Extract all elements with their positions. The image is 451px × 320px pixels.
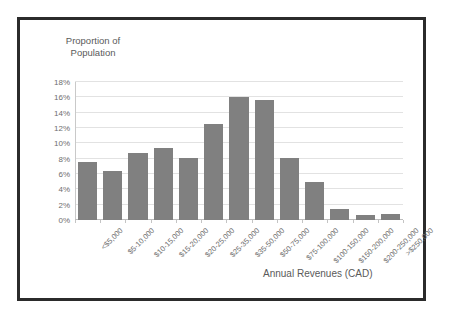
bar-slot xyxy=(75,82,100,220)
bar-slot xyxy=(277,82,302,220)
x-axis-tickmark xyxy=(353,220,354,223)
y-axis-tick-label: 14% xyxy=(54,108,70,117)
x-axis-tickmark xyxy=(75,220,76,223)
x-axis-tickmark xyxy=(201,220,202,223)
bar-slot xyxy=(176,82,201,220)
x-axis-tickmark xyxy=(378,220,379,223)
y-axis-tick-label: 18% xyxy=(54,78,70,87)
x-axis-tickmark xyxy=(277,220,278,223)
bar xyxy=(280,158,299,220)
bar-slot xyxy=(201,82,226,220)
y-axis-tick-label: 0% xyxy=(58,216,70,225)
figure-border: Proportion of Population 0%2%4%6%8%10%12… xyxy=(17,17,426,301)
x-axis-tickmark xyxy=(252,220,253,223)
x-axis-tickmark xyxy=(226,220,227,223)
bar xyxy=(255,100,274,220)
bar xyxy=(356,215,375,220)
bar xyxy=(128,153,147,220)
bar xyxy=(330,209,349,221)
bar-slot xyxy=(125,82,150,220)
x-axis-tick-label: <$5,000 xyxy=(99,226,125,252)
bar-slot xyxy=(100,82,125,220)
bar-slot xyxy=(378,82,403,220)
x-axis-tickmark xyxy=(302,220,303,223)
y-axis-tick-label: 12% xyxy=(54,124,70,133)
bar-slot xyxy=(327,82,352,220)
y-axis-tick-label: 16% xyxy=(54,93,70,102)
plot-area: 0%2%4%6%8%10%12%14%16%18% <$5,000$5-10,0… xyxy=(75,82,403,220)
bar xyxy=(381,214,400,220)
x-axis-title: Annual Revenues (CAD) xyxy=(263,268,373,279)
bar-series xyxy=(75,82,403,220)
bar xyxy=(229,97,248,220)
bar-slot xyxy=(151,82,176,220)
x-axis-tickmark xyxy=(403,220,404,223)
bar xyxy=(78,162,97,220)
bar-slot xyxy=(226,82,251,220)
bar-slot xyxy=(353,82,378,220)
x-axis-tickmark xyxy=(151,220,152,223)
x-axis-tickmark xyxy=(176,220,177,223)
bar xyxy=(204,124,223,220)
y-axis-tick-label: 4% xyxy=(58,185,70,194)
x-axis-tickmark xyxy=(327,220,328,223)
y-axis-tick-label: 2% xyxy=(58,200,70,209)
y-axis-tick-label: 6% xyxy=(58,170,70,179)
bar xyxy=(179,158,198,220)
y-axis-tick-label: 10% xyxy=(54,139,70,148)
bar xyxy=(103,171,122,220)
bar xyxy=(154,148,173,220)
chart-title: Proportion of Population xyxy=(38,35,148,58)
bar-slot xyxy=(302,82,327,220)
bar-slot xyxy=(252,82,277,220)
x-axis-tickmark xyxy=(125,220,126,223)
y-axis-tick-label: 8% xyxy=(58,154,70,163)
bar xyxy=(305,182,324,220)
x-axis-tickmark xyxy=(100,220,101,223)
